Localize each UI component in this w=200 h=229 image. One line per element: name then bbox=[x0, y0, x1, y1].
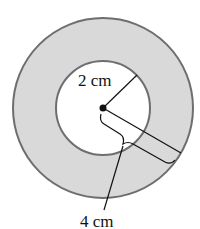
inner-radius-label: 2 cm bbox=[78, 71, 112, 90]
outer-radius-label: 4 cm bbox=[80, 212, 114, 229]
annulus-diagram: 2 cm 4 cm bbox=[0, 0, 200, 229]
center-point bbox=[100, 105, 107, 112]
